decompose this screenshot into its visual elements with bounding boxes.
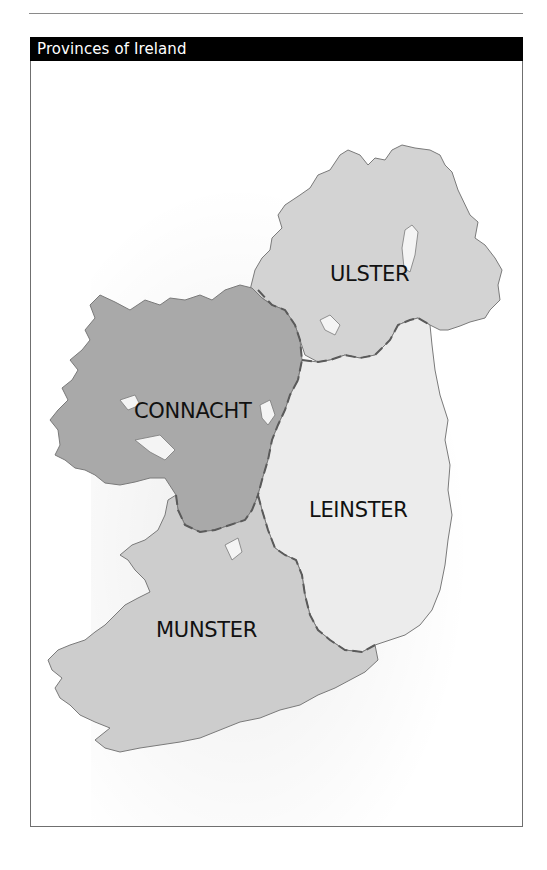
label-connacht: CONNACHT — [134, 399, 252, 423]
label-munster: MUNSTER — [156, 618, 257, 642]
label-ulster: ULSTER — [330, 262, 409, 286]
ireland-map — [0, 0, 547, 870]
label-leinster: LEINSTER — [309, 498, 408, 522]
